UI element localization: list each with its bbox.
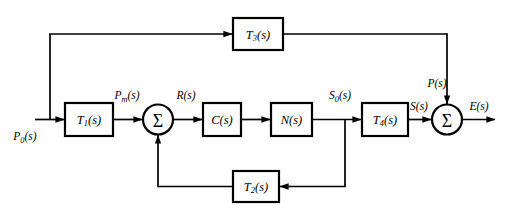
signal-label-p: P(s) <box>426 77 446 90</box>
block-t3-label: T3(s) <box>246 27 270 42</box>
signal-label-p0: P0(s) <box>12 130 37 145</box>
block-c-label: C(s) <box>211 113 233 127</box>
block-diagram-canvas: T1(s) C(s) N(s) T4(s) T3(s) T2(s) Σ Σ P0… <box>0 0 506 219</box>
block-t1-label: T1(s) <box>77 113 101 128</box>
signal-label-s: S(s) <box>410 100 428 113</box>
signal-label-pm: Pm(s) <box>113 89 139 104</box>
block-n-label: N(s) <box>280 113 303 127</box>
block-t4-label: T4(s) <box>373 113 397 128</box>
signal-label-e: E(s) <box>468 100 488 113</box>
signal-label-s0: S0(s) <box>329 89 351 104</box>
block-t2-label: T2(s) <box>244 180 268 195</box>
signal-label-r: R(s) <box>175 89 195 102</box>
summing-junction-2-symbol: Σ <box>442 111 452 131</box>
block-diagram-svg: T1(s) C(s) N(s) T4(s) T3(s) T2(s) Σ Σ P0… <box>0 0 506 219</box>
summing-junction-1-symbol: Σ <box>153 111 163 131</box>
